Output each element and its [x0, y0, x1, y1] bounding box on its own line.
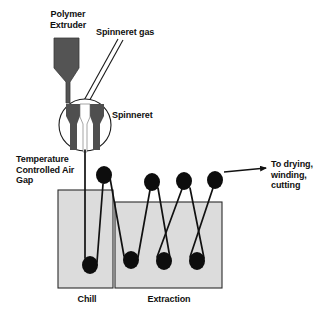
label-extraction-bath: Extraction — [134, 294, 204, 305]
bath-group — [58, 190, 222, 288]
label-spinneret-gas: Spinneret gas — [96, 27, 154, 38]
top-roller-4 — [207, 171, 223, 189]
label-polymer-extruder: Polymer Extruder — [30, 9, 106, 30]
label-chill-bath: Chill — [62, 294, 112, 305]
bottom-roller-3 — [156, 252, 172, 270]
gas-line-inner — [82, 39, 118, 104]
label-to-drying-winding-cutting: To drying, winding, cutting — [271, 159, 313, 191]
label-spinneret: Spinneret — [112, 110, 153, 121]
spinneret-gas-line — [82, 39, 123, 105]
bottom-roller-2 — [123, 251, 139, 269]
top-rollers — [96, 166, 223, 191]
exit-arrow — [224, 168, 266, 172]
top-roller-2 — [144, 173, 160, 191]
label-temperature-controlled-air-gap: Temperature Controlled Air Gap — [16, 154, 94, 186]
gas-line-outer — [87, 40, 123, 105]
bottom-roller-1 — [82, 256, 98, 274]
spinneret-detail — [59, 99, 111, 152]
fiber-spinning-diagram: Polymer Extruder Spinneret gas Spinneret… — [0, 0, 332, 319]
polymer-extruder-shape — [54, 38, 79, 103]
top-roller-1 — [96, 166, 112, 184]
top-roller-3 — [176, 172, 192, 190]
bottom-roller-4 — [189, 252, 205, 270]
extruder-body — [54, 38, 79, 103]
